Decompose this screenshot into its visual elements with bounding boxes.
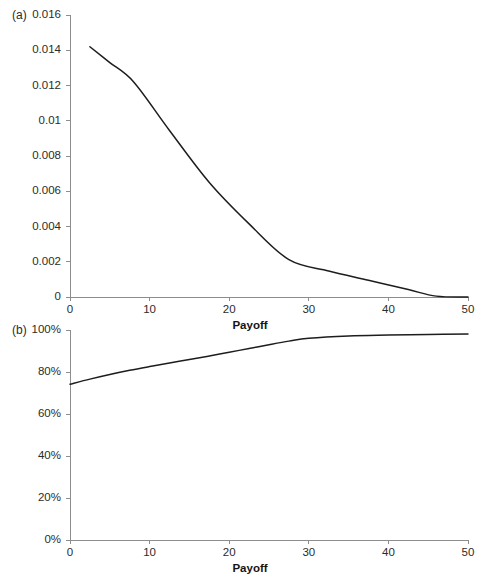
x-tick-label: 30 [289,547,329,559]
plot-area-b [0,315,477,585]
x-tick-label: 0 [50,547,90,559]
y-tick-label: 0.006 [0,185,61,197]
y-tick-label: 80% [0,366,61,378]
y-tick-label: 0.002 [0,256,61,268]
data-series-line [90,47,468,297]
y-tick-label: 60% [0,408,61,420]
chart-panel-b: (b) 0%20%40%60%80%100%01020304050 Payoff [0,315,477,585]
plot-area-a [0,0,477,320]
chart-panel-a: (a) 00.0020.0040.0060.0080.010.0120.0140… [0,0,477,320]
x-tick-label: 40 [368,304,408,316]
figure: (a) 00.0020.0040.0060.0080.010.0120.0140… [0,0,477,585]
x-tick-label: 20 [209,547,249,559]
y-tick-label: 0.012 [0,80,61,92]
y-tick-label: 0.016 [0,9,61,21]
y-tick-label: 0.004 [0,221,61,233]
y-tick-label: 0.008 [0,150,61,162]
y-tick-label: 20% [0,492,61,504]
y-tick-label: 0% [0,534,61,546]
x-tick-label: 50 [448,547,477,559]
x-tick-label: 40 [368,547,408,559]
x-tick-label: 20 [209,304,249,316]
x-tick-label: 0 [50,304,90,316]
x-tick-label: 10 [130,547,170,559]
y-tick-label: 100% [0,324,61,336]
data-series-line [70,334,468,384]
y-tick-label: 0 [0,291,61,303]
x-tick-label: 50 [448,304,477,316]
x-tick-label: 10 [130,304,170,316]
y-tick-label: 0.014 [0,44,61,56]
x-tick-label: 30 [289,304,329,316]
x-axis-title-b: Payoff [190,562,310,574]
y-tick-label: 0.01 [0,115,61,127]
y-tick-label: 40% [0,450,61,462]
